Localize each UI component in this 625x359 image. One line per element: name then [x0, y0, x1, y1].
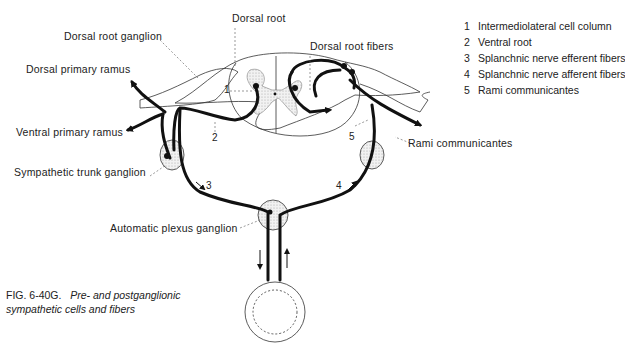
label-automatic-plexus-ganglion: Automatic plexus ganglion	[110, 222, 238, 234]
figure-caption: FIG. 6-40G. Pre- and postganglionic symp…	[6, 288, 181, 316]
plexus-ganglion	[258, 200, 288, 230]
legend: 1Intermediolateral cell column 2Ventral …	[464, 18, 625, 98]
label-dorsal-root-ganglion: Dorsal root ganglion	[64, 30, 162, 42]
label-ventral-primary-ramus: Ventral primary ramus	[16, 126, 123, 138]
gut-cross-section	[245, 282, 305, 342]
label-dorsal-root: Dorsal root	[232, 12, 286, 24]
label-dorsal-primary-ramus: Dorsal primary ramus	[26, 63, 130, 75]
caption-line-2: sympathetic cells and fibers	[6, 303, 135, 315]
number-4: 4	[336, 180, 342, 191]
caption-line-1: Pre- and postganglionic	[70, 289, 180, 301]
figure-number: FIG. 6-40G.	[6, 289, 61, 301]
label-sympathetic-trunk-ganglion: Sympathetic trunk ganglion	[14, 166, 146, 178]
legend-item: 2Ventral root	[464, 34, 625, 50]
label-rami-communicantes: Rami communicantes	[408, 137, 513, 149]
number-5: 5	[349, 131, 355, 142]
number-2: 2	[212, 132, 218, 143]
number-3: 3	[206, 180, 212, 191]
legend-item: 3Splanchnic nerve efferent fibers	[464, 50, 625, 66]
label-dorsal-root-fibers: Dorsal root fibers	[310, 40, 394, 52]
legend-item: 4Splanchnic nerve afferent fibers	[464, 66, 625, 82]
legend-item: 5Rami communicantes	[464, 82, 625, 98]
legend-item: 1Intermediolateral cell column	[464, 18, 625, 34]
number-1: 1	[224, 84, 230, 95]
